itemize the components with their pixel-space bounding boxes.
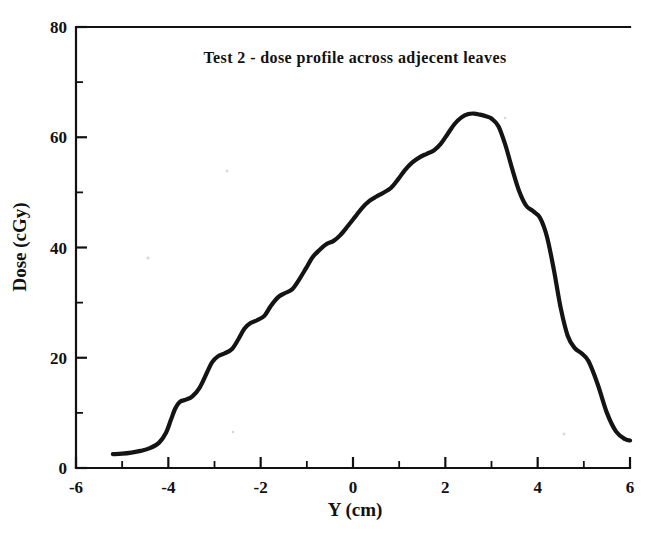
x-tick-label: -4 [161, 478, 176, 497]
scan-speck [504, 117, 507, 120]
x-tick-label: 2 [441, 478, 450, 497]
x-axis-label: Y (cm) [328, 499, 383, 521]
chart-title: Test 2 - dose profile across adjecent le… [203, 49, 506, 67]
x-tick-label: -2 [254, 478, 268, 497]
scan-speck [146, 256, 149, 259]
x-tick-label: 0 [349, 478, 358, 497]
y-axis-label: Dose (cGy) [9, 202, 31, 291]
x-tick-label: 6 [626, 478, 635, 497]
y-tick-label: 0 [59, 459, 68, 478]
scan-speck [232, 431, 235, 434]
scan-speck [226, 170, 229, 173]
y-tick-label: 20 [50, 349, 67, 368]
y-tick-label: 80 [50, 18, 67, 37]
y-tick-label: 40 [50, 239, 67, 258]
x-tick-label: -6 [69, 478, 83, 497]
chart-background [0, 0, 660, 540]
x-tick-label: 4 [533, 478, 542, 497]
y-tick-label: 60 [50, 128, 67, 147]
scan-speck [563, 433, 566, 436]
dose-profile-chart: 020406080 -6-4-20246 Test 2 - dose profi… [0, 0, 660, 540]
